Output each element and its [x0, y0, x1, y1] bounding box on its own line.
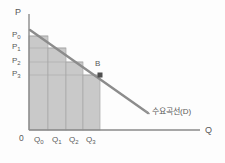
origin-label: 0 — [19, 134, 24, 143]
tick-label-p2-sub: 2 — [17, 60, 20, 66]
surplus-bar-q0 — [29, 36, 48, 130]
surplus-bar-q1 — [48, 48, 66, 130]
surplus-bars — [29, 36, 100, 130]
tick-label-q1-sub: 1 — [58, 139, 61, 145]
tick-label-p1: P1 — [12, 43, 21, 51]
tick-label-p0: P0 — [12, 31, 21, 39]
point-b-label: B — [95, 60, 100, 68]
point-b-marker — [98, 73, 103, 78]
tick-label-p3-sub: 3 — [17, 73, 20, 79]
tick-label-q2: Q2 — [69, 136, 79, 144]
tick-label-q3: Q3 — [86, 136, 96, 144]
surplus-bar-q3 — [83, 75, 100, 130]
demand-curve-figure: P Q 0 P0 P1 P2 P3 Q0 Q1 Q2 Q3 B 수요곡선(D) — [0, 0, 225, 163]
tick-label-p1-sub: 1 — [17, 46, 20, 52]
tick-label-p0-sub: 0 — [17, 34, 20, 40]
demand-curve-label: 수요곡선(D) — [152, 108, 191, 116]
tick-label-p2: P2 — [12, 57, 21, 65]
tick-label-q2-sub: 2 — [75, 139, 78, 145]
tick-label-q1: Q1 — [52, 136, 62, 144]
surplus-bar-q2 — [66, 62, 83, 130]
tick-label-p3: P3 — [12, 70, 21, 78]
y-axis-label: P — [15, 8, 21, 17]
tick-label-q0-sub: 0 — [40, 139, 43, 145]
tick-label-q3-sub: 3 — [92, 139, 95, 145]
tick-label-q0: Q0 — [34, 136, 44, 144]
x-axis-label: Q — [205, 126, 212, 135]
